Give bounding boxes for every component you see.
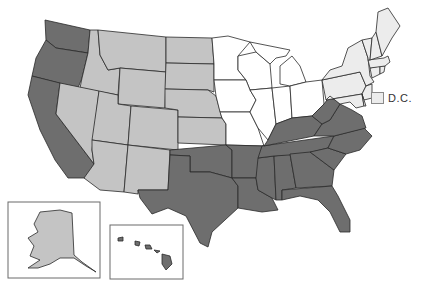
state-WY[interactable] xyxy=(118,68,166,108)
dc-legend: D.C. xyxy=(371,92,412,104)
dc-legend-label: D.C. xyxy=(388,92,412,104)
state-RI[interactable] xyxy=(380,66,385,74)
state-SD[interactable] xyxy=(165,63,214,92)
hawaii-inset xyxy=(110,225,183,279)
state-FL[interactable] xyxy=(282,186,350,232)
state-KS[interactable] xyxy=(178,117,226,145)
alaska-inset xyxy=(8,202,100,278)
dc-legend-swatch xyxy=(371,92,384,104)
state-NM[interactable] xyxy=(124,145,170,194)
state-IN[interactable] xyxy=(272,86,292,124)
state-ND[interactable] xyxy=(166,37,214,64)
state-MT[interactable] xyxy=(98,30,166,72)
us-map xyxy=(0,0,421,285)
hawaii-inset-frame xyxy=(110,225,183,279)
state-CO[interactable] xyxy=(128,106,178,150)
